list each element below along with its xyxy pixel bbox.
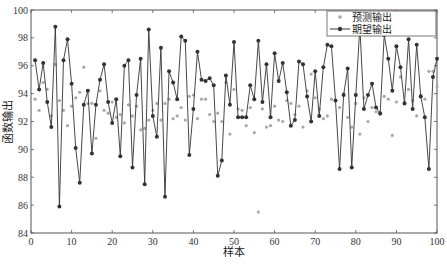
- predicted-point: [127, 103, 130, 106]
- predicted-point: [228, 132, 231, 135]
- expected-point: [394, 44, 398, 48]
- predicted-point: [139, 128, 142, 131]
- predicted-point: [391, 134, 394, 137]
- predicted-point: [269, 124, 272, 127]
- expected-point: [370, 82, 374, 86]
- expected-point: [118, 154, 122, 158]
- expected-point: [183, 39, 187, 43]
- predicted-point: [184, 119, 187, 122]
- expected-point: [423, 115, 427, 119]
- expected-point: [122, 64, 126, 68]
- expected-point: [293, 118, 297, 122]
- predicted-point: [415, 114, 418, 117]
- expected-point: [208, 76, 212, 80]
- predicted-point: [387, 98, 390, 101]
- predicted-point: [216, 112, 219, 115]
- expected-point: [264, 62, 268, 66]
- y-tick-label: 84: [18, 228, 28, 239]
- expected-point: [285, 90, 289, 94]
- predicted-point: [163, 102, 166, 105]
- expected-point: [256, 39, 260, 43]
- predicted-point: [159, 119, 162, 122]
- expected-point: [216, 174, 220, 178]
- expected-point: [74, 146, 78, 150]
- predicted-point: [253, 131, 256, 134]
- expected-point: [390, 89, 394, 93]
- expected-point: [419, 94, 423, 98]
- expected-point: [70, 82, 74, 86]
- expected-point: [131, 165, 135, 169]
- predicted-point: [326, 114, 329, 117]
- predicted-point: [102, 109, 105, 112]
- predicted-point: [297, 105, 300, 108]
- predicted-point: [289, 102, 292, 105]
- predicted-point: [111, 100, 114, 103]
- predicted-point: [204, 98, 207, 101]
- expected-point: [41, 61, 45, 65]
- expected-point: [135, 93, 139, 97]
- expected-point: [297, 60, 301, 64]
- y-tick-label: 98: [18, 32, 28, 43]
- expected-point: [139, 57, 143, 61]
- expected-point: [289, 124, 293, 128]
- expected-point: [232, 40, 236, 44]
- x-tick-label: 80: [351, 236, 361, 247]
- expected-point: [313, 69, 317, 73]
- y-tick-label: 90: [18, 144, 28, 155]
- predicted-point: [261, 107, 264, 110]
- expected-point: [143, 182, 147, 186]
- expected-point: [171, 80, 175, 84]
- expected-point: [248, 83, 252, 87]
- predicted-point: [423, 98, 426, 101]
- expected-point: [342, 93, 346, 97]
- expected-point: [90, 152, 94, 156]
- predicted-point: [249, 106, 252, 109]
- predicted-point: [172, 117, 175, 120]
- expected-point: [366, 93, 370, 97]
- predicted-point: [301, 125, 304, 128]
- predicted-point: [330, 98, 333, 101]
- x-tick-label: 100: [430, 236, 445, 247]
- expected-point: [78, 181, 82, 185]
- y-tick-label: 86: [18, 200, 28, 211]
- predicted-point: [338, 106, 341, 109]
- predicted-point: [232, 88, 235, 91]
- predicted-point: [427, 70, 430, 73]
- expected-point: [317, 114, 321, 118]
- expected-point: [86, 89, 90, 93]
- predicted-point: [94, 137, 97, 140]
- x-tick-label: 60: [270, 236, 280, 247]
- predicted-point: [241, 109, 244, 112]
- legend-expected-label: 期望输出: [352, 23, 392, 35]
- expected-point: [407, 37, 411, 41]
- expected-point: [106, 100, 110, 104]
- expected-point: [212, 83, 216, 87]
- predicted-point: [435, 85, 438, 88]
- expected-point: [403, 101, 407, 105]
- y-tick-label: 92: [18, 116, 28, 127]
- expected-point: [415, 43, 419, 47]
- expected-point: [163, 195, 167, 199]
- expected-point: [49, 125, 53, 129]
- expected-point: [167, 69, 171, 73]
- expected-point: [200, 78, 204, 82]
- predicted-point: [370, 106, 373, 109]
- predicted-point: [66, 124, 69, 127]
- expected-point: [321, 65, 325, 69]
- expected-point: [269, 115, 273, 119]
- x-tick-label: 30: [148, 236, 158, 247]
- expected-point: [159, 46, 163, 50]
- predicted-point: [395, 100, 398, 103]
- predicted-point: [196, 117, 199, 120]
- x-axis-title: 样本: [223, 245, 245, 259]
- expected-point: [431, 75, 435, 79]
- y-tick-label: 94: [18, 88, 28, 99]
- expected-point: [260, 100, 264, 104]
- expected-point: [252, 97, 256, 101]
- expected-point: [147, 28, 151, 32]
- expected-point: [362, 107, 366, 111]
- expected-point: [346, 67, 350, 71]
- predicted-point: [407, 88, 410, 91]
- predicted-point: [208, 113, 211, 116]
- expected-point: [126, 58, 130, 62]
